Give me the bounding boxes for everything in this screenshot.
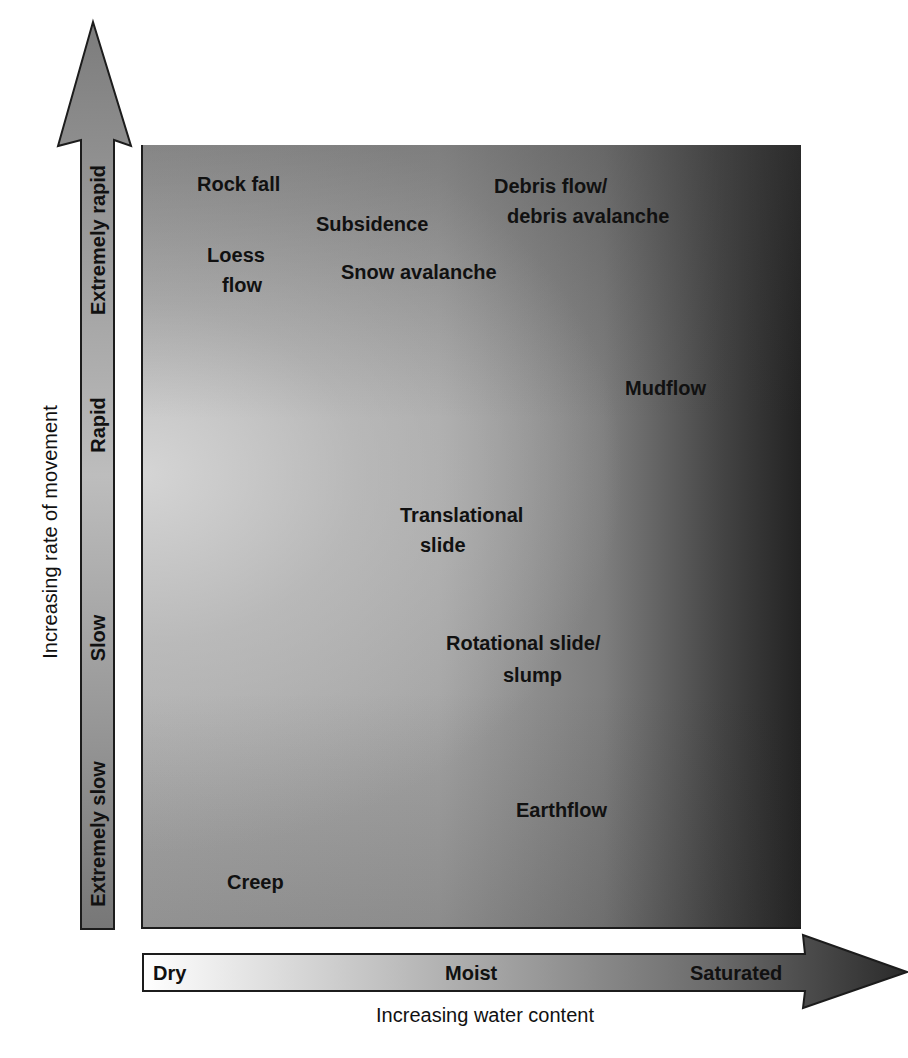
y-band-extremely-rapid: Extremely rapid xyxy=(87,165,110,315)
label-creep: Creep xyxy=(227,867,284,897)
label-debris-flow: Debris flow/ debris avalanche xyxy=(494,171,669,231)
y-band-extremely-slow: Extremely slow xyxy=(87,761,110,907)
label-translational-slide: Translational slide xyxy=(400,500,523,560)
label-loess-flow: Loess flow xyxy=(198,240,274,300)
x-band-dry: Dry xyxy=(153,959,186,987)
label-snow-avalanche: Snow avalanche xyxy=(341,257,497,287)
y-band-slow: Slow xyxy=(87,615,110,662)
x-axis-title: Increasing water content xyxy=(0,1004,908,1027)
label-rotational-slide-slump: Rotational slide/ slump xyxy=(446,627,600,691)
label-subsidence: Subsidence xyxy=(316,209,428,239)
y-axis-title: Increasing rate of movement xyxy=(39,405,62,658)
y-band-rapid: Rapid xyxy=(87,397,110,453)
label-rock-fall: Rock fall xyxy=(197,169,280,199)
x-band-moist: Moist xyxy=(445,959,497,987)
label-mudflow: Mudflow xyxy=(625,373,706,403)
x-band-saturated: Saturated xyxy=(690,959,782,987)
label-earthflow: Earthflow xyxy=(516,795,607,825)
